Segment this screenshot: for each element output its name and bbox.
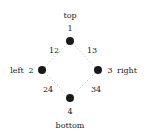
node-name-top: top [63, 11, 76, 20]
node-id-4: 4 [67, 107, 72, 116]
node-2-left [38, 66, 46, 74]
node-id-3: 3 [107, 66, 112, 75]
edge-label-12: 12 [49, 46, 59, 55]
edge-label-24: 24 [43, 85, 53, 94]
edge-label-34: 34 [91, 85, 101, 94]
node-id-1: 1 [67, 24, 72, 33]
node-name-left: left [10, 66, 23, 75]
node-name-right: right [117, 66, 137, 75]
node-name-bottom: bottom [56, 121, 85, 130]
graph-diagram: top 1 left 2 3 right 4 bottom 12 13 24 3… [0, 0, 148, 139]
node-3-right [94, 66, 102, 74]
node-id-2: 2 [28, 66, 33, 75]
node-1-top [66, 37, 74, 45]
edge-label-13: 13 [87, 46, 97, 55]
node-4-bottom [66, 94, 74, 102]
